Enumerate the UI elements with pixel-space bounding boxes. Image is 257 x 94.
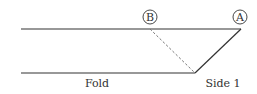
fold-label: Fold bbox=[85, 77, 109, 90]
fold-crease-dashed-line bbox=[150, 29, 195, 73]
side-edge-line bbox=[195, 29, 241, 73]
point-a-marker: A bbox=[233, 10, 247, 24]
point-b-label: B bbox=[146, 11, 154, 24]
point-b-marker: B bbox=[143, 10, 157, 24]
point-a-label: A bbox=[235, 11, 245, 24]
side-1-label: Side 1 bbox=[205, 77, 240, 90]
fold-diagram: B A Fold Side 1 bbox=[0, 0, 257, 94]
